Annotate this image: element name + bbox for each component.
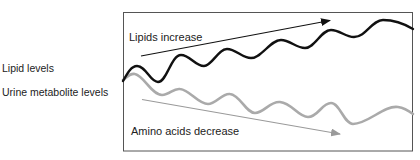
urine-metabolite-line xyxy=(123,74,413,124)
lipids-increase-annotation: Lipids increase xyxy=(129,31,202,43)
amino-acids-decrease-annotation: Amino acids decrease xyxy=(131,125,239,137)
trend-diagram: Lipids increase Amino acids decrease xyxy=(0,0,420,160)
